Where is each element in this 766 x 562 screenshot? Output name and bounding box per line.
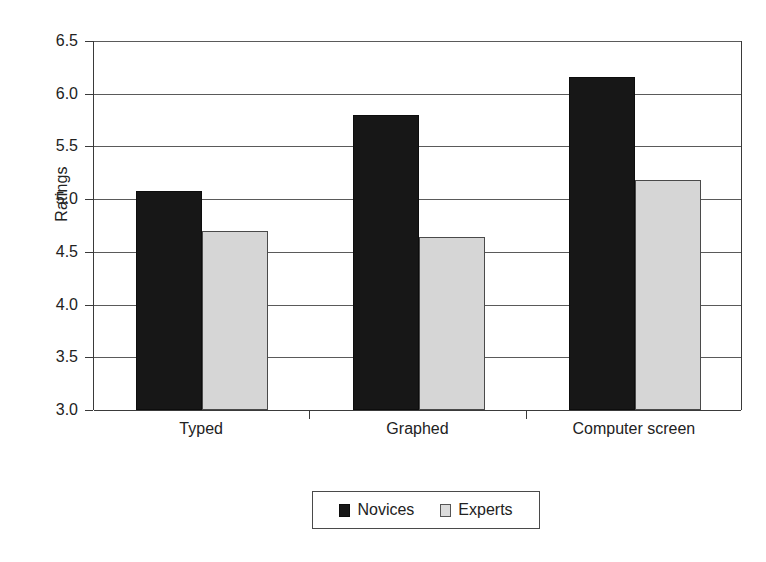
- legend-item-novices: Novices: [339, 501, 414, 519]
- legend-label-novices: Novices: [357, 501, 414, 519]
- gridline: [94, 410, 741, 411]
- y-tick-label: 5.5: [32, 138, 78, 154]
- y-tick-label: 5.0: [32, 191, 78, 207]
- y-tick-mark: [85, 146, 93, 147]
- y-tick-mark: [85, 199, 93, 200]
- x-tick-mark: [526, 410, 527, 419]
- x-tick-mark: [309, 410, 310, 419]
- y-tick-label: 6.5: [32, 33, 78, 49]
- gridline: [94, 41, 741, 42]
- y-tick-label: 6.0: [32, 86, 78, 102]
- bar-novices-computer-screen: [569, 77, 635, 410]
- black-swatch-icon: [339, 504, 350, 517]
- x-category-label: Typed: [93, 420, 309, 438]
- y-tick-label: 4.0: [32, 297, 78, 313]
- legend-label-experts: Experts: [458, 501, 512, 519]
- bar-novices-typed: [136, 191, 202, 410]
- bar-chart: Ratings 6.56.05.55.04.54.03.53.0 TypedGr…: [0, 0, 766, 562]
- y-tick-mark: [85, 41, 93, 42]
- x-category-label: Computer screen: [526, 420, 742, 438]
- bar-experts-graphed: [419, 237, 485, 410]
- y-tick-mark: [85, 410, 93, 411]
- y-axis-tick-labels: 6.56.05.55.04.54.03.53.0: [0, 0, 78, 562]
- plot-area: [93, 41, 742, 410]
- y-tick-mark: [85, 94, 93, 95]
- bar-experts-computer-screen: [635, 180, 701, 410]
- bar-experts-typed: [202, 231, 268, 410]
- y-tick-label: 3.5: [32, 349, 78, 365]
- y-tick-mark: [85, 252, 93, 253]
- y-tick-mark: [85, 305, 93, 306]
- y-tick-mark: [85, 357, 93, 358]
- bar-novices-graphed: [353, 115, 419, 410]
- y-tick-label: 4.5: [32, 244, 78, 260]
- light-gray-swatch-icon: [440, 504, 451, 517]
- y-tick-label: 3.0: [32, 402, 78, 418]
- legend-item-experts: Experts: [440, 501, 512, 519]
- chart-legend: Novices Experts: [312, 491, 540, 529]
- x-category-label: Graphed: [309, 420, 525, 438]
- gridline: [94, 94, 741, 95]
